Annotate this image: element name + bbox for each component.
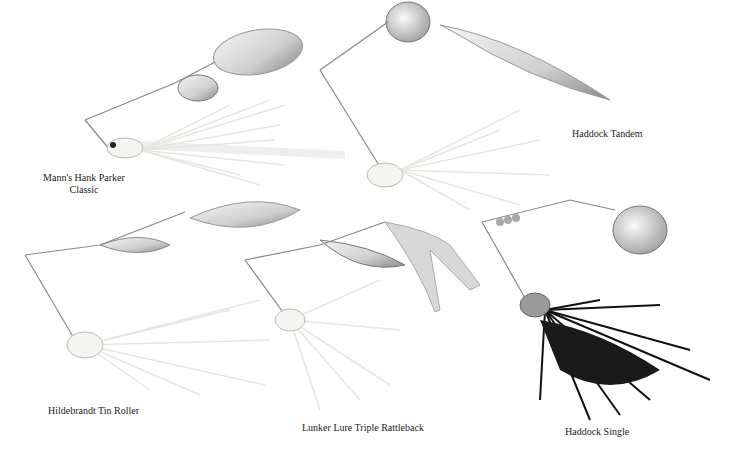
spinnerbait-illustration (0, 0, 734, 455)
lure-lunker-lure-triple-rattleback (245, 222, 480, 410)
lure-haddock-tandem (320, 2, 610, 210)
lure-hildebrandt-tin-roller (25, 202, 300, 395)
label-mann-hank-parker: Mann's Hank Parker Classic (25, 172, 143, 196)
label-haddock-single: Haddock Single (565, 426, 629, 438)
lure-haddock-single (482, 200, 710, 420)
label-hildebrandt-tin-roller: Hildebrandt Tin Roller (48, 405, 139, 417)
lure-mann-hank-parker (85, 23, 345, 185)
label-line-2: Classic (25, 184, 143, 196)
label-lunker-lure-triple-rattleback: Lunker Lure Triple Rattleback (302, 422, 424, 434)
label-line-1: Mann's Hank Parker (25, 172, 143, 184)
label-haddock-tandem: Haddock Tandem (572, 128, 642, 140)
